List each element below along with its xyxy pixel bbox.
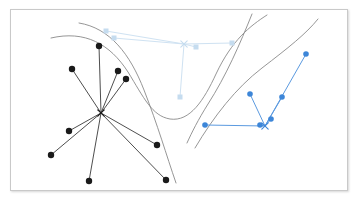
cluster-spokes-layer: [51, 31, 306, 181]
boundary-upper-left: [51, 15, 267, 119]
data-point-marker: [123, 76, 129, 82]
cluster-spoke: [69, 113, 101, 131]
figure-stage: [0, 0, 358, 204]
cluster-spoke: [106, 31, 184, 44]
cluster-spoke: [205, 125, 265, 126]
data-point-marker: [279, 94, 285, 100]
data-point-marker: [86, 178, 92, 184]
data-point-marker: [178, 95, 183, 100]
cluster-spoke: [180, 44, 184, 97]
data-point-marker: [268, 116, 274, 122]
cluster-spoke: [184, 43, 232, 44]
data-point-marker: [194, 45, 199, 50]
data-point-marker: [230, 41, 235, 46]
cluster-spoke: [51, 113, 101, 155]
data-point-marker: [154, 142, 160, 148]
cluster-spoke: [101, 71, 118, 113]
scatter-plot-canvas: [0, 0, 358, 204]
cluster-spoke: [265, 54, 306, 126]
cluster-spoke: [250, 94, 265, 126]
boundary-right-outer: [187, 14, 252, 143]
boundary-right-rising: [195, 19, 318, 148]
cluster-points-layer: [48, 29, 309, 185]
data-point-marker: [303, 51, 309, 57]
data-point-marker: [112, 36, 117, 41]
boundary-left-steep: [79, 23, 176, 183]
cluster-spoke: [114, 38, 184, 44]
data-point-marker: [96, 43, 102, 49]
data-point-marker: [69, 66, 75, 72]
data-point-marker: [247, 91, 253, 97]
data-point-marker: [163, 177, 169, 183]
cluster-spoke: [99, 46, 101, 113]
data-point-marker: [202, 122, 208, 128]
data-point-marker: [104, 29, 109, 34]
cluster-spoke: [101, 113, 157, 145]
cluster-spoke: [89, 113, 101, 181]
cluster-spoke: [101, 79, 126, 113]
data-point-marker: [48, 152, 54, 158]
data-point-marker: [66, 128, 72, 134]
data-point-marker: [115, 68, 121, 74]
cluster-spoke: [72, 69, 101, 113]
